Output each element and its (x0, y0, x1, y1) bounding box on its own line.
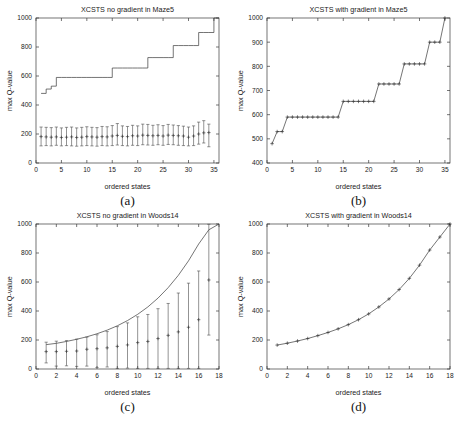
plot-a: XCSTS no gradient in Maze505101520253035… (0, 0, 230, 212)
y-tick-label: 900 (252, 39, 263, 46)
x-tick-label: 12 (385, 372, 393, 379)
x-tick-label: 6 (326, 372, 330, 379)
x-axis-label: ordered states (105, 182, 151, 191)
x-axis-label: ordered states (105, 388, 151, 397)
x-tick-label: 2 (285, 372, 289, 379)
plot-b: XCSTS with gradient in Maze5051015202530… (231, 0, 461, 212)
x-axis-label: ordered states (336, 388, 382, 397)
series-1 (44, 224, 210, 368)
x-tick-label: 15 (109, 166, 117, 173)
x-tick-label: 25 (159, 166, 167, 173)
series-0 (270, 16, 446, 145)
y-tick-label: 400 (21, 307, 32, 314)
x-tick-label: 20 (365, 166, 373, 173)
plot-c: XCSTS no gradient in Woods14024681012141… (0, 206, 230, 418)
y-tick-label: 0 (28, 159, 32, 166)
x-tick-label: 8 (115, 372, 119, 379)
y-axis-label: max Q-value (236, 70, 245, 111)
x-tick-label: 12 (154, 372, 162, 379)
x-tick-label: 35 (210, 166, 218, 173)
x-tick-label: 16 (426, 372, 434, 379)
x-axis-label: ordered states (336, 182, 382, 191)
y-tick-label: 0 (259, 365, 263, 372)
chart-panel-a: XCSTS no gradient in Maze505101520253035… (0, 0, 230, 212)
y-tick-label: 800 (252, 63, 263, 70)
x-tick-label: 0 (34, 372, 38, 379)
x-tick-label: 5 (291, 166, 295, 173)
y-tick-label: 1000 (248, 14, 263, 21)
series-line (272, 18, 445, 144)
x-tick-label: 14 (175, 372, 183, 379)
x-tick-label: 18 (446, 372, 454, 379)
y-tick-label: 0 (28, 365, 32, 372)
plot-title-c: XCSTS no gradient in Woods14 (77, 211, 179, 220)
y-tick-label: 600 (252, 111, 263, 118)
y-tick-label: 600 (21, 278, 32, 285)
x-tick-label: 15 (340, 166, 348, 173)
series-line (277, 224, 450, 345)
x-tick-label: 35 (441, 166, 449, 173)
y-tick-label: 800 (21, 249, 32, 256)
series-line (41, 18, 219, 93)
x-tick-label: 10 (365, 372, 373, 379)
plot-title-d: XCSTS with gradient in Woods14 (305, 211, 412, 220)
panel-caption-c: (c) (120, 399, 134, 414)
y-tick-label: 600 (252, 278, 263, 285)
y-axis-label: max Q-value (236, 276, 245, 317)
y-tick-label: 1000 (17, 220, 32, 227)
plot-frame (267, 18, 450, 163)
x-tick-label: 14 (406, 372, 414, 379)
chart-panel-d: XCSTS with gradient in Woods140246810121… (231, 206, 461, 418)
plot-title-a: XCSTS no gradient in Maze5 (81, 5, 174, 14)
y-tick-label: 200 (21, 130, 32, 137)
x-tick-label: 0 (34, 166, 38, 173)
x-tick-label: 30 (416, 166, 424, 173)
x-tick-label: 0 (265, 166, 269, 173)
figure-panel-grid: XCSTS no gradient in Maze505101520253035… (0, 0, 461, 424)
y-axis-label: max Q-value (5, 276, 14, 317)
x-tick-label: 25 (390, 166, 398, 173)
x-tick-label: 10 (134, 372, 142, 379)
x-tick-label: 16 (195, 372, 203, 379)
x-tick-label: 4 (306, 372, 310, 379)
y-tick-label: 400 (252, 307, 263, 314)
y-tick-label: 700 (252, 87, 263, 94)
series-1 (39, 121, 210, 147)
x-tick-label: 10 (314, 166, 322, 173)
x-tick-label: 4 (75, 372, 79, 379)
series-0 (275, 222, 451, 347)
x-tick-label: 18 (215, 372, 223, 379)
y-tick-label: 800 (21, 43, 32, 50)
x-tick-label: 5 (60, 166, 64, 173)
x-tick-label: 6 (95, 372, 99, 379)
x-tick-label: 20 (134, 166, 142, 173)
panel-caption-d: (d) (351, 399, 366, 414)
y-tick-label: 200 (21, 336, 32, 343)
x-tick-label: 8 (346, 372, 350, 379)
y-tick-label: 1000 (248, 220, 263, 227)
x-tick-label: 0 (265, 372, 269, 379)
y-tick-label: 400 (21, 101, 32, 108)
x-tick-label: 10 (83, 166, 91, 173)
plot-title-b: XCSTS with gradient in Maze5 (310, 5, 408, 14)
chart-panel-c: XCSTS no gradient in Woods14024681012141… (0, 206, 230, 418)
y-tick-label: 500 (252, 135, 263, 142)
series-0 (46, 224, 219, 345)
y-tick-label: 600 (21, 72, 32, 79)
x-tick-label: 2 (54, 372, 58, 379)
plot-frame (267, 224, 450, 369)
y-tick-label: 400 (252, 159, 263, 166)
y-tick-label: 1000 (17, 14, 32, 21)
series-0 (41, 18, 219, 93)
y-axis-label: max Q-value (5, 70, 14, 111)
chart-panel-b: XCSTS with gradient in Maze5051015202530… (231, 0, 461, 212)
plot-d: XCSTS with gradient in Woods140246810121… (231, 206, 461, 418)
y-tick-label: 200 (252, 336, 263, 343)
series-line (46, 224, 219, 345)
x-tick-label: 30 (185, 166, 193, 173)
y-tick-label: 800 (252, 249, 263, 256)
